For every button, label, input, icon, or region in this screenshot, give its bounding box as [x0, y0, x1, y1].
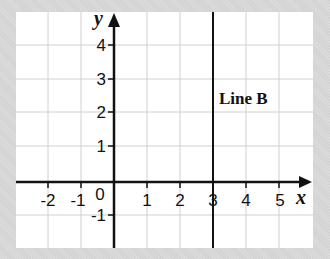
y-tick-label: 2 [97, 103, 106, 122]
x-tick-label: 2 [175, 191, 184, 210]
y-tick-label: 1 [97, 137, 106, 156]
x-tick-label: -1 [70, 191, 85, 210]
y-tick-label: -1 [91, 206, 106, 225]
x-tick-label: 1 [142, 191, 151, 210]
plot-area [16, 12, 313, 248]
x-tick-label: 5 [275, 191, 284, 210]
graph-frame: -2 -1 0 1 2 3 4 5 4 3 2 1 -1 y x Line B [0, 0, 330, 259]
y-axis-label: y [92, 7, 103, 30]
line-b-label: Line B [219, 89, 268, 108]
y-tick-label: 3 [97, 70, 106, 89]
coordinate-plane: -2 -1 0 1 2 3 4 5 4 3 2 1 -1 y x Line B [0, 0, 330, 259]
y-tick-label: 4 [97, 36, 106, 55]
x-tick-label: 4 [241, 191, 250, 210]
x-axis-label: x [295, 186, 306, 208]
origin-label: 0 [95, 185, 104, 204]
x-tick-label: -2 [40, 191, 55, 210]
x-tick-label: 3 [208, 191, 217, 210]
